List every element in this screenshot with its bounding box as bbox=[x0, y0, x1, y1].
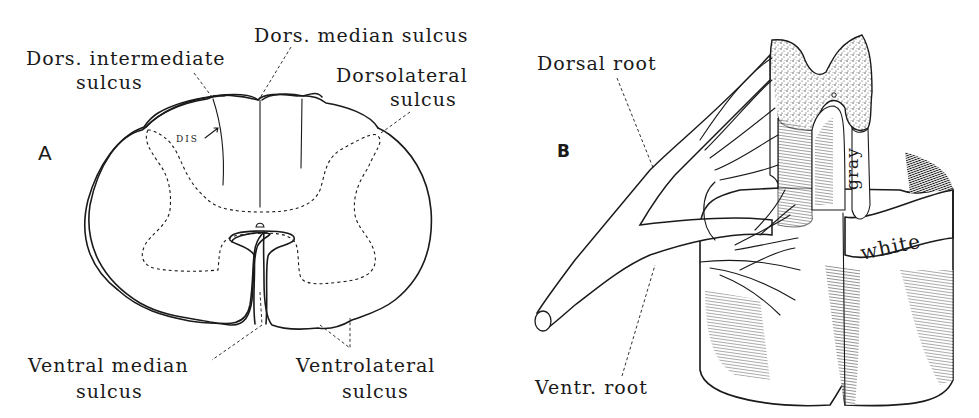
label-ventrolateral-sulcus-line2: sulcus bbox=[342, 380, 409, 402]
cord-outline-left bbox=[89, 96, 264, 324]
label-ventral-median-sulcus-line2: sulcus bbox=[76, 380, 143, 402]
label-dorsal-median-sulcus: Dors. median sulcus bbox=[254, 24, 468, 46]
cord-outline-right bbox=[264, 128, 432, 329]
label-dorsolateral-sulcus-line2: sulcus bbox=[390, 88, 457, 110]
leader-dorsolateral bbox=[381, 112, 410, 133]
gray-column-left bbox=[778, 118, 812, 227]
leader-dorsal-intermediate bbox=[194, 73, 212, 97]
label-dorsal-root: Dorsal root bbox=[537, 52, 657, 74]
panel-letter-a: A bbox=[38, 141, 52, 165]
label-dorsal-intermediate-sulcus-line2: sulcus bbox=[76, 71, 143, 93]
label-dorsolateral-sulcus-line1: Dorsolateral bbox=[336, 64, 468, 86]
gray-matter-boundary bbox=[142, 130, 380, 284]
label-ventral-median-sulcus-line1: Ventral median bbox=[27, 354, 189, 376]
leader-ventral-root bbox=[622, 265, 655, 376]
ventral-median-fissure bbox=[230, 231, 294, 324]
dis-arrow bbox=[205, 128, 218, 138]
label-gray: gray bbox=[842, 147, 862, 190]
label-ventrolateral-sulcus-line1: Ventrolateral bbox=[295, 354, 435, 376]
nerve-cut-end bbox=[535, 311, 551, 331]
central-canal bbox=[256, 223, 264, 227]
leader-ventrolateral bbox=[320, 318, 350, 348]
spinal-cord-figure: A DIS Dors. median sulcus Dors. intermed… bbox=[0, 0, 979, 418]
cord-shading-back-dark bbox=[905, 152, 953, 193]
cord-cross-section-outline bbox=[85, 94, 322, 326]
leader-dorsal-median bbox=[260, 47, 291, 98]
label-dorsal-intermediate-sulcus-line1: Dors. intermediate bbox=[26, 47, 226, 69]
label-ventral-root: Ventr. root bbox=[534, 376, 648, 398]
panel-letter-b: B bbox=[557, 141, 570, 161]
dorsal-intermediate-septum-right bbox=[301, 99, 302, 168]
panel-a: A DIS Dors. median sulcus Dors. intermed… bbox=[26, 24, 468, 402]
cord-outline-top bbox=[214, 94, 378, 128]
central-canal-b bbox=[832, 93, 836, 97]
dorsal-intermediate-septum-left bbox=[213, 99, 223, 185]
label-dis: DIS bbox=[176, 134, 199, 144]
leader-dorsal-root bbox=[617, 78, 654, 170]
panel-b: B gray white bbox=[534, 35, 953, 406]
